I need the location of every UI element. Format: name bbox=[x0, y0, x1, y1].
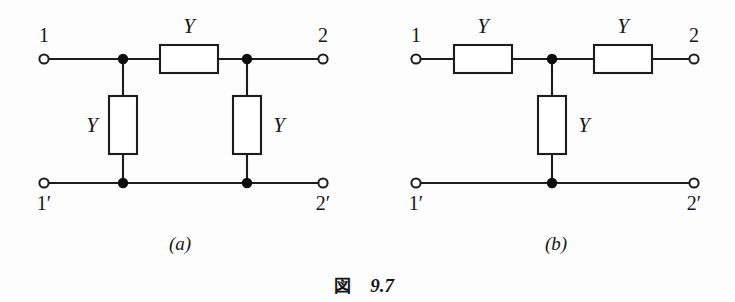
circuit-a-subcaption: (a) bbox=[169, 233, 191, 255]
figure-9-7-diagram: Y Y Y 1 2 1′ 2′ (a) bbox=[0, 0, 735, 302]
circuit-a-junction-top-left bbox=[118, 54, 128, 64]
circuit-b-terminal-2-prime-port[interactable] bbox=[689, 178, 698, 187]
circuit-a-pi-network: Y Y Y 1 2 1′ 2′ (a) bbox=[37, 14, 330, 255]
circuit-b-terminal-1-label: 1 bbox=[411, 24, 421, 46]
circuit-b-terminal-1-prime-port[interactable] bbox=[411, 178, 420, 187]
circuit-b-subcaption: (b) bbox=[545, 233, 567, 255]
circuit-a-junction-bottom-right bbox=[242, 178, 252, 188]
circuit-a-terminal-1-port[interactable] bbox=[39, 54, 48, 63]
circuit-a-right-shunt-admittance-label: Y bbox=[273, 113, 287, 137]
circuit-b-terminal-2-label: 2 bbox=[689, 24, 699, 46]
circuit-b-terminal-1-port[interactable] bbox=[411, 54, 420, 63]
circuit-a-terminal-2-label: 2 bbox=[318, 24, 328, 46]
circuit-b-right-series-admittance-box bbox=[594, 45, 652, 73]
circuit-b-left-series-admittance-label: Y bbox=[477, 14, 491, 38]
circuit-b-left-series-admittance-box bbox=[454, 45, 512, 73]
circuit-a-terminal-2-port[interactable] bbox=[318, 54, 327, 63]
circuit-a-terminal-2-prime-label: 2′ bbox=[316, 192, 330, 214]
circuit-b-tee-network: Y Y Y 1 2 1′ 2′ (b) bbox=[409, 14, 701, 255]
circuit-b-terminal-1-prime-label: 1′ bbox=[409, 192, 423, 214]
circuit-a-left-shunt-admittance-box bbox=[109, 96, 137, 154]
circuit-a-series-admittance-box bbox=[160, 45, 218, 73]
figure-caption: 図 9.7 bbox=[334, 275, 396, 296]
circuit-a-left-shunt-admittance-label: Y bbox=[86, 113, 100, 137]
circuit-a-terminal-2-prime-port[interactable] bbox=[318, 178, 327, 187]
circuit-a-series-admittance-label: Y bbox=[183, 14, 197, 38]
figure-caption-number: 9.7 bbox=[370, 275, 395, 296]
circuit-a-terminal-1-prime-label: 1′ bbox=[37, 192, 51, 214]
circuit-a-junction-bottom-left bbox=[118, 178, 128, 188]
circuit-b-terminal-2-prime-label: 2′ bbox=[687, 192, 701, 214]
circuit-a-terminal-1-prime-port[interactable] bbox=[39, 178, 48, 187]
circuit-a-right-shunt-admittance-box bbox=[233, 96, 261, 154]
circuit-a-terminal-1-label: 1 bbox=[39, 24, 49, 46]
circuit-b-shunt-admittance-label: Y bbox=[578, 113, 592, 137]
circuit-b-junction-bottom-center bbox=[547, 178, 557, 188]
circuit-a-junction-top-right bbox=[242, 54, 252, 64]
circuit-b-terminal-2-port[interactable] bbox=[689, 54, 698, 63]
figure-page: Y Y Y 1 2 1′ 2′ (a) bbox=[0, 0, 735, 302]
circuit-b-right-series-admittance-label: Y bbox=[617, 14, 631, 38]
figure-caption-kanji: 図 bbox=[334, 277, 351, 296]
circuit-b-shunt-admittance-box bbox=[538, 96, 566, 154]
circuit-b-junction-top-center bbox=[547, 54, 557, 64]
